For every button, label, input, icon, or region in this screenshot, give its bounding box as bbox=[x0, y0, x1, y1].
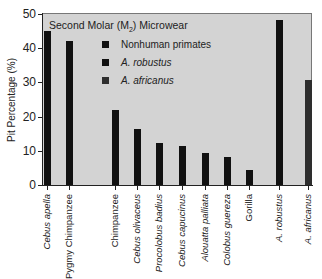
bar bbox=[246, 170, 253, 185]
bar bbox=[224, 157, 231, 185]
bar bbox=[305, 80, 312, 185]
x-tick bbox=[115, 186, 116, 190]
x-tick-label: Cebus apella bbox=[41, 194, 52, 249]
x-tick-label: Pygmy Chimpanzee bbox=[63, 194, 74, 279]
x-tick bbox=[205, 186, 206, 190]
x-tick bbox=[69, 186, 70, 190]
x-tick bbox=[182, 186, 183, 190]
x-tick-label: Procolobus badius bbox=[153, 194, 164, 272]
bar bbox=[134, 129, 141, 185]
legend-swatch bbox=[102, 41, 109, 48]
x-tick-label: Colobus guereza bbox=[221, 194, 232, 266]
x-tick bbox=[159, 186, 160, 190]
x-tick-label: Gorilla bbox=[243, 194, 254, 221]
x-tick bbox=[279, 186, 280, 190]
y-tick-label: 50 bbox=[14, 8, 36, 20]
y-axis-line bbox=[42, 13, 43, 186]
x-tick-label: Cebus capucinus bbox=[176, 194, 187, 267]
x-tick-label: Alouatta palliata bbox=[199, 194, 210, 262]
x-tick bbox=[227, 186, 228, 190]
x-tick-label: A. africanus bbox=[302, 194, 313, 244]
bar bbox=[44, 31, 51, 185]
legend-swatch bbox=[102, 59, 109, 66]
x-tick bbox=[308, 186, 309, 190]
y-tick-label: 40 bbox=[14, 42, 36, 54]
y-tick-label: 20 bbox=[14, 111, 36, 123]
y-tick-label: 0 bbox=[14, 179, 36, 191]
bar bbox=[179, 146, 186, 185]
x-tick-label: Cebus olivaceus bbox=[131, 194, 142, 264]
bar bbox=[156, 143, 163, 185]
x-tick bbox=[249, 186, 250, 190]
bar bbox=[202, 153, 209, 185]
y-axis-label: Pit Percentage (%) bbox=[6, 58, 17, 142]
y-tick-label: 10 bbox=[14, 145, 36, 157]
x-tick-label: A. robustus bbox=[273, 194, 284, 242]
y-tick-label: 30 bbox=[14, 76, 36, 88]
bar bbox=[276, 20, 283, 185]
legend-label: A. robustus bbox=[121, 57, 172, 68]
bar bbox=[112, 110, 119, 185]
legend-label: Nonhuman primates bbox=[121, 39, 211, 50]
x-tick bbox=[137, 186, 138, 190]
x-axis-line bbox=[42, 185, 313, 186]
bar bbox=[66, 41, 73, 185]
legend-label: A. africanus bbox=[121, 75, 174, 86]
x-tick-label: Chimpanzee bbox=[109, 194, 120, 247]
chart-title: Second Molar (M2) Microwear bbox=[49, 19, 188, 33]
legend-swatch bbox=[102, 77, 109, 84]
x-tick bbox=[47, 186, 48, 190]
